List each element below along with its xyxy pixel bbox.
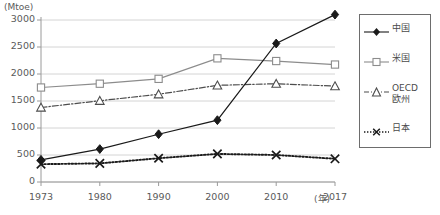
data-point-marker (331, 10, 338, 19)
legend-item-japan[interactable]: 日本 (363, 123, 431, 135)
series-line (37, 79, 340, 111)
data-point-marker (214, 55, 221, 62)
data-point-marker (273, 57, 280, 64)
data-point-marker (96, 145, 103, 154)
data-point-marker (154, 90, 163, 98)
diamond-marker-icon (363, 23, 390, 35)
chart-legend: 中国 米国 OECD 欧州 (359, 14, 431, 148)
data-point-marker (155, 75, 162, 82)
x-marker-icon (363, 123, 390, 135)
series-polyline (41, 15, 335, 160)
legend-label-oecd-europe: OECD 欧州 (390, 83, 418, 104)
legend-label-china: 中国 (390, 23, 410, 34)
data-point-marker (96, 80, 103, 87)
chart-container: (Mtoe) (年) 050010001500200025003000 1973… (0, 0, 440, 215)
legend-item-usa[interactable]: 米国 (363, 53, 431, 65)
legend-label-japan: 日本 (390, 123, 410, 134)
data-point-marker (37, 155, 44, 164)
square-marker-icon (363, 53, 390, 65)
data-point-marker (37, 84, 44, 91)
series-polyline (41, 84, 335, 108)
legend-label-usa: 米国 (390, 53, 410, 64)
triangle-marker-icon (363, 83, 390, 95)
legend-item-china[interactable]: 中国 (363, 23, 431, 35)
series-line (37, 10, 338, 164)
series-line (37, 55, 338, 91)
data-point-marker (155, 130, 162, 139)
legend-item-oecd-europe[interactable]: OECD 欧州 (363, 83, 431, 104)
data-point-marker (331, 61, 338, 68)
series-polyline (41, 58, 335, 87)
